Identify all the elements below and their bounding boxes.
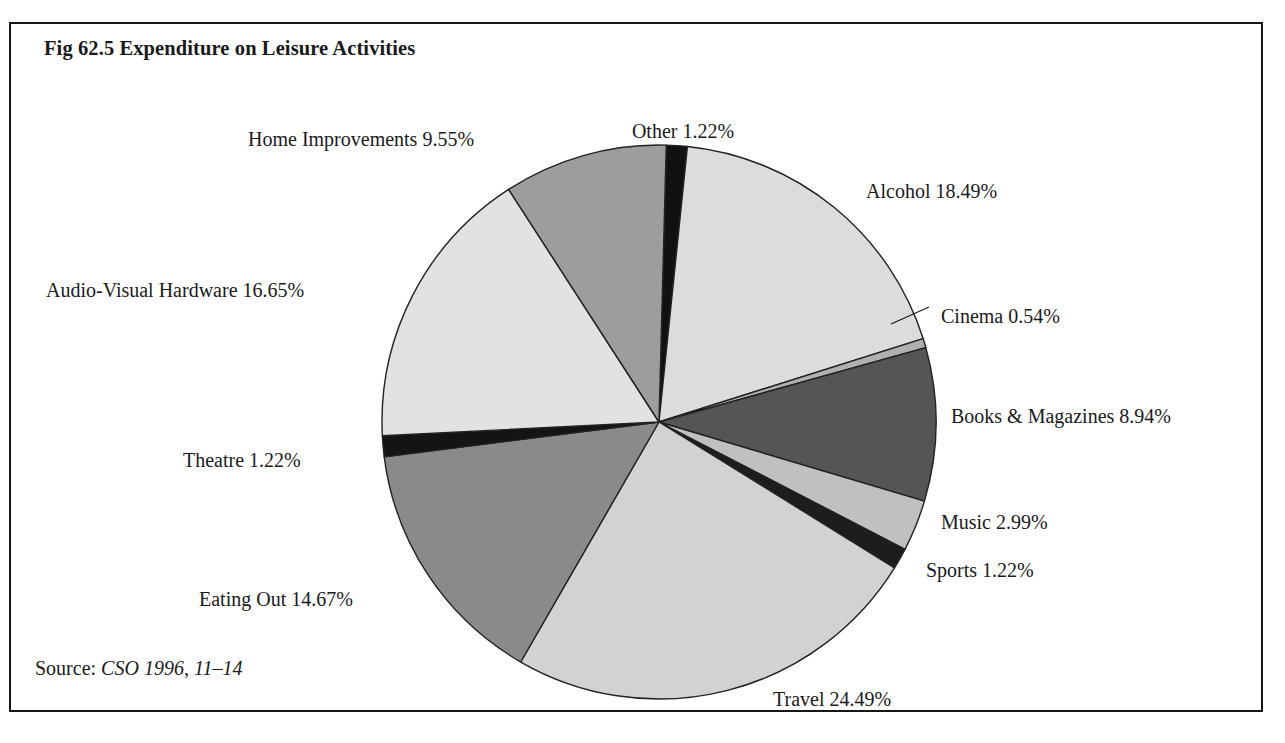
figure-source: Source: CSO 1996, 11–14: [35, 657, 242, 680]
pie-slice-label: Theatre 1.22%: [183, 449, 301, 471]
figure-frame: Fig 62.5 Expenditure on Leisure Activiti…: [9, 22, 1263, 712]
pie-slice-group: [382, 145, 936, 699]
pie-slice-label: Eating Out 14.67%: [199, 588, 353, 610]
pie-slice-label: Home Improvements 9.55%: [248, 128, 474, 150]
pie-slice-label: Sports 1.22%: [926, 559, 1034, 581]
pie-slice-label: Alcohol 18.49%: [866, 180, 997, 202]
pie-slice-label: Books & Magazines 8.94%: [951, 405, 1171, 427]
pie-slice-label: Audio-Visual Hardware 16.65%: [46, 279, 304, 301]
pie-slice-label: Other 1.22%: [632, 120, 734, 142]
pie-slice-label: Travel 24.49%: [773, 688, 891, 710]
pie-slice-label: Cinema 0.54%: [941, 305, 1060, 327]
source-value: CSO 1996, 11–14: [101, 657, 242, 679]
source-label: Source:: [35, 657, 96, 679]
pie-slice-label: Music 2.99%: [941, 511, 1048, 533]
